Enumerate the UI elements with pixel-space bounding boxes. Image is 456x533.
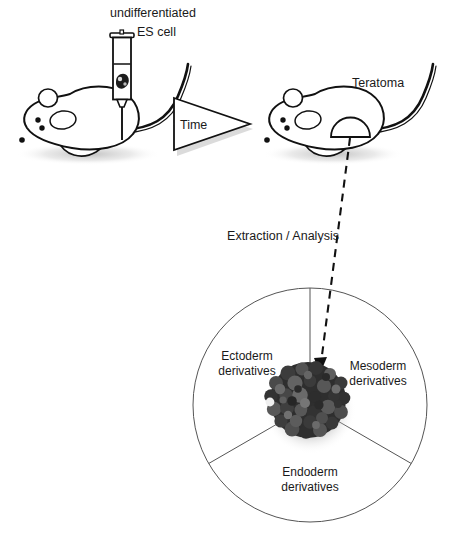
sector-label-endoderm-line2: derivatives — [281, 480, 338, 494]
mouse-eye — [35, 117, 40, 122]
sector-label-mesoderm-line1: Mesoderm — [350, 359, 407, 373]
teratoma-label: Teratoma — [352, 76, 404, 90]
extraction-label: Extraction / Analysis — [227, 229, 339, 243]
mouse-nose — [264, 137, 270, 143]
syringe-barrel — [113, 38, 131, 100]
mouse-ear — [39, 89, 58, 107]
dashed-arrow-icon — [314, 138, 350, 374]
mouse-with-tumor-icon — [263, 64, 436, 165]
mouse-eye — [284, 125, 289, 130]
time-arrow-icon: Time — [174, 98, 253, 156]
teratoma-assay-diagram: undifferentiated ES cell Time — [0, 0, 456, 533]
mouse-eye — [39, 125, 44, 130]
dashed-arrow-line — [321, 138, 350, 363]
sector-label-endoderm-line1: Endoderm — [282, 465, 337, 479]
sector-label-mesoderm-line2: derivatives — [349, 374, 406, 388]
cell-cluster-icon[interactable] — [264, 361, 356, 454]
mouse-eye — [280, 117, 285, 122]
mouse-nose — [19, 137, 25, 143]
time-arrow-label: Time — [180, 118, 207, 132]
mouse-ear — [284, 89, 303, 107]
mouse-icon — [16, 64, 191, 165]
injection-label-line1: undifferentiated — [110, 6, 196, 20]
sector-label-ectoderm-line2: derivatives — [218, 364, 275, 378]
sector-label-ectoderm-line1: Ectoderm — [221, 349, 272, 363]
syringe-plunger-rod — [120, 30, 124, 34]
figure-canvas: undifferentiated ES cell Time — [0, 0, 456, 533]
injection-label-line2: ES cell — [137, 25, 176, 39]
